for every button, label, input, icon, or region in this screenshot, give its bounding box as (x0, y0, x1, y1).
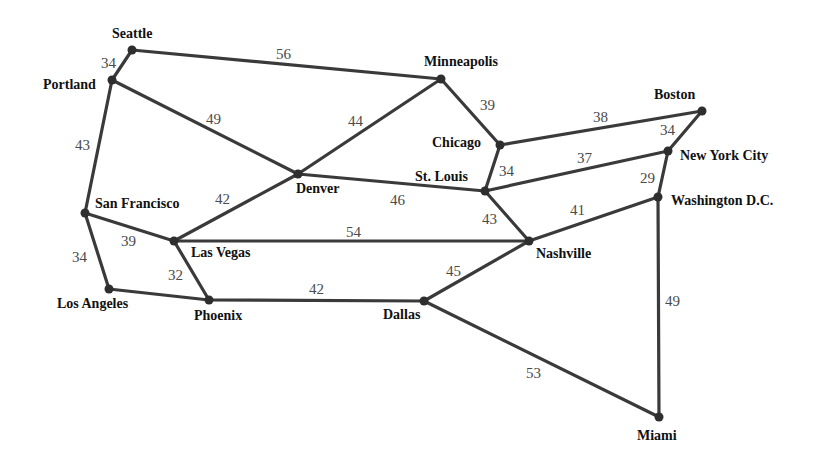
edge-new-york-city-washington-dc (658, 151, 668, 197)
edge-weight-st-louis-nashville: 43 (482, 211, 497, 227)
node-minneapolis (437, 75, 446, 84)
city-label-portland: Portland (43, 77, 96, 92)
city-label-las-vegas: Las Vegas (191, 245, 251, 260)
city-label-new-york-city: New York City (680, 148, 768, 163)
node-portland (108, 76, 117, 85)
edge-weight-st-louis-new-york-city: 37 (577, 150, 593, 166)
edge-weight-las-vegas-nashville: 54 (346, 224, 362, 240)
node-new-york-city (664, 147, 673, 156)
node-dallas (420, 297, 429, 306)
edge-weight-san-francisco-las-vegas: 39 (121, 233, 136, 249)
edge-phoenix-dallas (209, 300, 424, 301)
node-chicago (496, 141, 505, 150)
city-label-san-francisco: San Francisco (95, 196, 179, 211)
node-st-louis (481, 187, 490, 196)
edge-weight-san-francisco-los-angeles: 34 (72, 249, 88, 265)
city-label-minneapolis: Minneapolis (424, 54, 498, 69)
edge-weight-washington-dc-nashville: 41 (570, 202, 585, 218)
edge-weight-chicago-st-louis: 34 (499, 163, 515, 179)
nodes-layer (81, 46, 707, 422)
edge-weight-dallas-nashville: 45 (446, 263, 461, 279)
edge-portland-denver (112, 80, 298, 174)
edge-weight-washington-dc-miami: 49 (665, 293, 680, 309)
edge-dallas-miami (424, 301, 659, 417)
node-san-francisco (81, 209, 90, 218)
edges-layer (85, 50, 702, 417)
city-label-washington-dc: Washington D.C. (671, 193, 773, 208)
edge-washington-dc-miami (658, 197, 659, 417)
node-las-vegas (170, 237, 179, 246)
edge-weight-las-vegas-phoenix: 32 (168, 267, 183, 283)
city-network-graph: 3456434944393834343729464243414939345432… (0, 0, 832, 471)
edge-weight-denver-las-vegas: 42 (215, 191, 230, 207)
edge-weight-denver-st-louis: 46 (390, 192, 406, 208)
edge-weight-dallas-miami: 53 (526, 365, 541, 381)
node-boston (698, 107, 707, 116)
node-miami (655, 413, 664, 422)
node-los-angeles (105, 285, 114, 294)
city-label-los-angeles: Los Angeles (57, 296, 129, 311)
edge-washington-dc-nashville (529, 197, 658, 241)
edge-weight-new-york-city-washington-dc: 29 (640, 170, 655, 186)
city-label-seattle: Seattle (112, 26, 152, 41)
edge-weight-portland-denver: 49 (206, 111, 221, 127)
city-label-nashville: Nashville (536, 246, 591, 261)
city-label-chicago: Chicago (432, 135, 481, 150)
edge-weight-minneapolis-chicago: 39 (480, 97, 495, 113)
edge-dallas-nashville (424, 241, 529, 301)
city-label-phoenix: Phoenix (194, 308, 242, 323)
edge-denver-las-vegas (174, 174, 298, 241)
node-washington-dc (654, 193, 663, 202)
weights-layer: 3456434944393834343729464243414939345432… (72, 46, 680, 381)
city-label-boston: Boston (654, 87, 695, 102)
city-label-dallas: Dallas (383, 307, 421, 322)
node-seattle (128, 46, 137, 55)
edge-weight-chicago-boston: 38 (593, 109, 608, 125)
edge-weight-seattle-minneapolis: 56 (276, 46, 292, 62)
city-label-denver: Denver (296, 181, 340, 196)
city-label-st-louis: St. Louis (415, 169, 468, 184)
edge-weight-portland-san-francisco: 43 (75, 137, 90, 153)
edge-weight-boston-new-york-city: 34 (660, 122, 676, 138)
node-denver (294, 170, 303, 179)
node-nashville (525, 237, 534, 246)
edge-san-francisco-los-angeles (85, 213, 109, 289)
node-phoenix (205, 296, 214, 305)
edge-weight-phoenix-dallas: 42 (309, 281, 324, 297)
edge-weight-minneapolis-denver: 44 (348, 113, 364, 129)
edge-weight-seattle-portland: 34 (101, 55, 117, 71)
edge-minneapolis-denver (298, 79, 441, 174)
edge-chicago-st-louis (485, 145, 500, 191)
city-label-miami: Miami (637, 428, 677, 443)
